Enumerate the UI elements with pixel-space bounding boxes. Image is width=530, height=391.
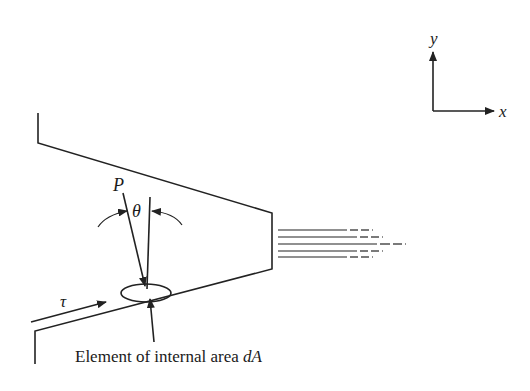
surface-normal-line bbox=[147, 197, 150, 289]
nozzle-diagram: y x bbox=[0, 0, 530, 391]
jet-streamlines bbox=[278, 230, 406, 257]
pressure-vector: P bbox=[112, 175, 145, 286]
caption-symbol: dA bbox=[243, 347, 263, 366]
coordinate-axes: y x bbox=[428, 29, 507, 121]
caption-pointer-arrow bbox=[150, 299, 154, 342]
shear-stress-label: τ bbox=[60, 292, 67, 311]
pressure-label: P bbox=[112, 175, 124, 195]
angle-arrow-right bbox=[152, 211, 182, 225]
area-element-ellipse bbox=[121, 284, 171, 302]
angle-label: θ bbox=[132, 201, 141, 221]
y-axis-label: y bbox=[428, 29, 438, 48]
nozzle-walls bbox=[35, 113, 272, 364]
nozzle-outline bbox=[35, 113, 272, 364]
shear-stress-vector: τ bbox=[31, 292, 106, 322]
shear-stress-arrow bbox=[31, 302, 106, 322]
angle-indicator: θ bbox=[98, 201, 182, 227]
caption: Element of internal area dA bbox=[75, 347, 263, 366]
caption-text: Element of internal area bbox=[75, 347, 243, 366]
x-axis-label: x bbox=[498, 102, 507, 121]
angle-arrow-left bbox=[98, 211, 127, 227]
